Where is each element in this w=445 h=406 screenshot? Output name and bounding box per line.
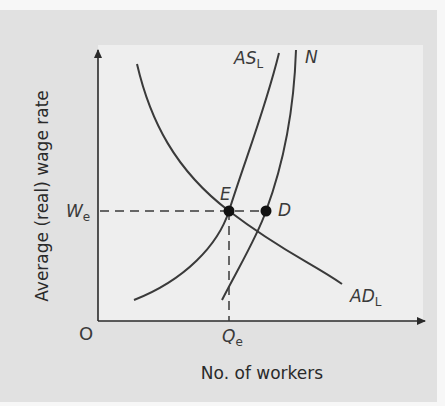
asl-label: ASL xyxy=(233,48,263,71)
n-curve xyxy=(222,50,296,300)
adl-curve xyxy=(137,64,342,284)
point-d xyxy=(261,206,272,217)
point-e xyxy=(224,206,235,217)
origin-label: O xyxy=(79,323,93,344)
asl-curve xyxy=(134,53,279,300)
y-axis-label: Average (real) wage rate xyxy=(32,90,52,302)
point-e-label: E xyxy=(220,184,231,204)
labour-market-diagram: ASL N ADL E D We Qe O xyxy=(0,0,445,406)
quantity-level-label: Qe xyxy=(222,326,243,349)
n-label: N xyxy=(305,47,318,67)
wage-level-label: We xyxy=(66,201,90,224)
x-axis-label: No. of workers xyxy=(201,363,323,383)
point-d-label: D xyxy=(278,200,291,220)
adl-label: ADL xyxy=(349,286,382,309)
